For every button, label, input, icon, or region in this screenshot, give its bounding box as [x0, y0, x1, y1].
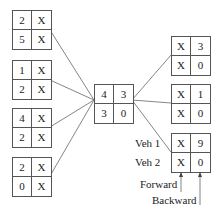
cell: X: [172, 134, 191, 153]
cell: 2: [13, 11, 32, 30]
cell: X: [172, 153, 191, 172]
right-node-2: X 1 X 0: [171, 84, 211, 124]
veh2-label: Veh 2: [135, 156, 160, 168]
cell: X: [172, 85, 191, 104]
cell: 2: [13, 80, 32, 99]
edge-L1-C: [50, 30, 94, 100]
right-node-3: X 9 X 0: [171, 133, 211, 173]
cell: 3: [191, 37, 210, 56]
cell: 4: [13, 109, 32, 128]
cell: 4: [95, 85, 114, 104]
cell: X: [32, 61, 51, 80]
cell: X: [32, 30, 51, 49]
cell: 9: [191, 134, 210, 153]
edge-C-R1: [132, 55, 171, 100]
cell: X: [172, 37, 191, 56]
cell: 0: [114, 104, 133, 123]
left-node-1: 2 X 5 X: [12, 10, 52, 50]
cell: X: [32, 80, 51, 99]
veh1-label: Veh 1: [135, 137, 160, 149]
cell: X: [172, 56, 191, 75]
edge-C-R2: [132, 100, 171, 103]
edge-L3-C: [50, 100, 94, 127]
center-node: 4 3 3 0: [94, 84, 134, 124]
left-node-4: 2 X 0 X: [12, 157, 52, 197]
cell: 1: [191, 85, 210, 104]
cell: 5: [13, 30, 32, 49]
cell: 0: [191, 153, 210, 172]
cell: X: [32, 109, 51, 128]
cell: 1: [13, 61, 32, 80]
cell: 0: [191, 104, 210, 123]
cell: 3: [114, 85, 133, 104]
cell: 3: [95, 104, 114, 123]
backward-label: Backward: [152, 194, 197, 206]
cell: 0: [191, 56, 210, 75]
cell: 0: [13, 177, 32, 196]
cell: X: [172, 104, 191, 123]
cell: X: [32, 177, 51, 196]
left-node-3: 4 X 2 X: [12, 108, 52, 148]
right-node-1: X 3 X 0: [171, 36, 211, 76]
cell: 2: [13, 158, 32, 177]
cell: 2: [13, 128, 32, 147]
edge-L4-C: [50, 100, 94, 176]
cell: X: [32, 128, 51, 147]
cell: X: [32, 158, 51, 177]
cell: X: [32, 11, 51, 30]
left-node-2: 1 X 2 X: [12, 60, 52, 100]
forward-label: Forward: [140, 178, 177, 190]
